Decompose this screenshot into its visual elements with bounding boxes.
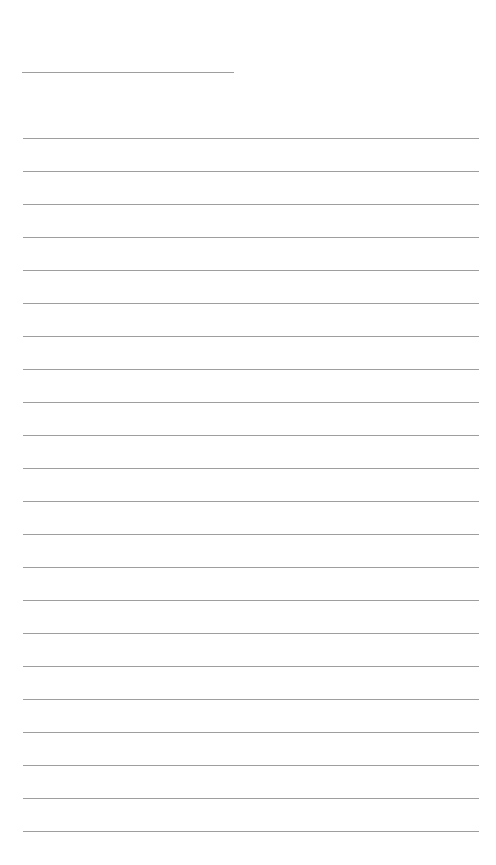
writing-line	[23, 798, 479, 799]
writing-line	[23, 204, 479, 205]
writing-line	[23, 171, 479, 172]
writing-line	[23, 468, 479, 469]
writing-line	[23, 765, 479, 766]
writing-line	[23, 138, 479, 139]
writing-line	[23, 534, 479, 535]
writing-line	[23, 303, 479, 304]
writing-line	[23, 633, 479, 634]
writing-line	[23, 336, 479, 337]
writing-line	[23, 600, 479, 601]
writing-line	[23, 270, 479, 271]
writing-line	[23, 567, 479, 568]
writing-line	[23, 666, 479, 667]
writing-line	[23, 402, 479, 403]
writing-line	[23, 501, 479, 502]
title-line	[22, 72, 234, 73]
writing-line	[23, 699, 479, 700]
writing-line	[23, 732, 479, 733]
writing-line	[23, 831, 479, 832]
writing-line	[23, 369, 479, 370]
writing-line	[23, 237, 479, 238]
writing-line	[23, 435, 479, 436]
